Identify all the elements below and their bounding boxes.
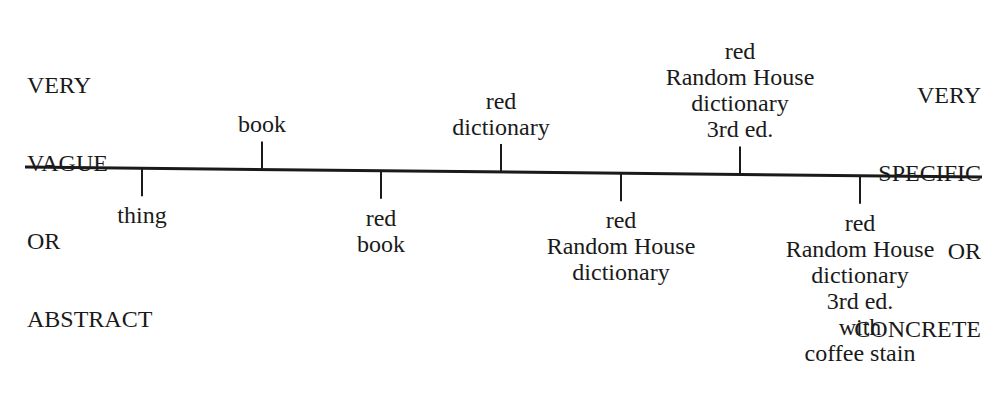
tick-label-line: dictionary: [452, 114, 549, 140]
tick-label-line: dictionary: [547, 259, 696, 285]
left-end-line: VERY: [27, 72, 152, 98]
tick-label-line: dictionary: [786, 262, 935, 288]
tick-label-line: with: [786, 314, 935, 340]
tick-label-line: 3rd ed.: [666, 116, 815, 142]
tick-label-line: red: [357, 205, 405, 231]
left-end-line: ABSTRACT: [27, 306, 152, 332]
tick-label-line: book: [357, 231, 405, 257]
left-end-line: OR: [27, 228, 152, 254]
left-end-line: VAGUE: [27, 150, 152, 176]
tick-label-line: Random House: [786, 236, 935, 262]
abstraction-ladder-diagram: VERY VAGUE OR ABSTRACT VERY SPECIFIC OR …: [0, 0, 1005, 402]
tick-label-line: red: [452, 88, 549, 114]
tick-label-line: red: [786, 210, 935, 236]
tick-label-line: book: [238, 111, 286, 137]
tick-label: redRandom Housedictionary3rd ed.: [666, 38, 815, 142]
right-end-line: VERY: [854, 82, 981, 108]
right-end-line: SPECIFIC: [854, 160, 981, 186]
tick-label-line: Random House: [666, 64, 815, 90]
tick-label: redRandom Housedictionary3rd ed.withcoff…: [786, 210, 935, 366]
tick-label-line: Random House: [547, 233, 696, 259]
tick-label-line: coffee stain: [786, 340, 935, 366]
axis-line: [25, 167, 982, 177]
tick-label: redbook: [357, 205, 405, 257]
tick-label-line: 3rd ed.: [786, 288, 935, 314]
tick-label-line: thing: [117, 202, 166, 228]
tick-label-line: red: [666, 38, 815, 64]
tick-label-line: dictionary: [666, 90, 815, 116]
tick-label-line: red: [547, 207, 696, 233]
tick-label: book: [238, 111, 286, 137]
tick-label: reddictionary: [452, 88, 549, 140]
tick-label: redRandom Housedictionary: [547, 207, 696, 285]
tick-label: thing: [117, 202, 166, 228]
